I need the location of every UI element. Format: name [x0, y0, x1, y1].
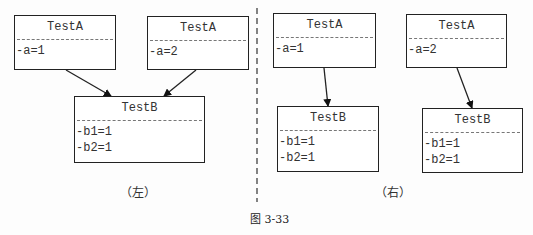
- arrow-right-a2-to-b2: [457, 68, 472, 108]
- class-title: TestA: [407, 18, 506, 34]
- class-attribute: -b2=1: [423, 152, 522, 168]
- class-attribute: -b1=1: [423, 136, 522, 152]
- class-attribute: -a=2: [148, 44, 248, 60]
- left-testa-2-box: TestA -a=2: [147, 16, 249, 70]
- left-panel-label: （左）: [120, 183, 156, 200]
- arrow-right-a1-to-b1: [324, 68, 328, 106]
- class-attribute: -a=2: [407, 42, 506, 58]
- class-title: TestB: [423, 112, 522, 128]
- class-separator: [77, 120, 202, 121]
- right-testa-2-box: TestA -a=2: [406, 14, 507, 68]
- figure-canvas: TestA -a=1 TestA -a=2 TestB -b1=1 -b2=1 …: [0, 0, 533, 235]
- class-title: TestB: [278, 110, 378, 126]
- right-testb-2-box: TestB -b1=1 -b2=1: [422, 108, 523, 173]
- class-title: TestA: [274, 17, 375, 33]
- right-panel-label: （右）: [375, 183, 411, 200]
- left-testa-1-box: TestA -a=1: [14, 15, 116, 70]
- class-title: TestA: [15, 19, 115, 35]
- arrow-left-a1-to-b: [66, 70, 111, 96]
- left-testb-box: TestB -b1=1 -b2=1: [74, 96, 205, 163]
- class-attribute: -a=1: [274, 41, 375, 57]
- class-attribute: -b1=1: [75, 124, 204, 140]
- right-testa-1-box: TestA -a=1: [273, 13, 376, 68]
- class-attribute: -b2=1: [75, 140, 204, 156]
- figure-caption: 图 3-33: [250, 210, 289, 226]
- class-separator: [425, 132, 520, 133]
- arrow-left-a2-to-b: [164, 70, 196, 96]
- class-attribute: -b2=1: [278, 150, 378, 166]
- class-separator: [17, 39, 113, 40]
- class-separator: [150, 40, 246, 41]
- class-attribute: -b1=1: [278, 134, 378, 150]
- class-attribute: -a=1: [15, 43, 115, 59]
- class-separator: [409, 38, 504, 39]
- class-separator: [276, 37, 373, 38]
- class-title: TestB: [75, 100, 204, 116]
- class-separator: [280, 130, 376, 131]
- class-title: TestA: [148, 20, 248, 36]
- right-testb-1-box: TestB -b1=1 -b2=1: [277, 106, 379, 172]
